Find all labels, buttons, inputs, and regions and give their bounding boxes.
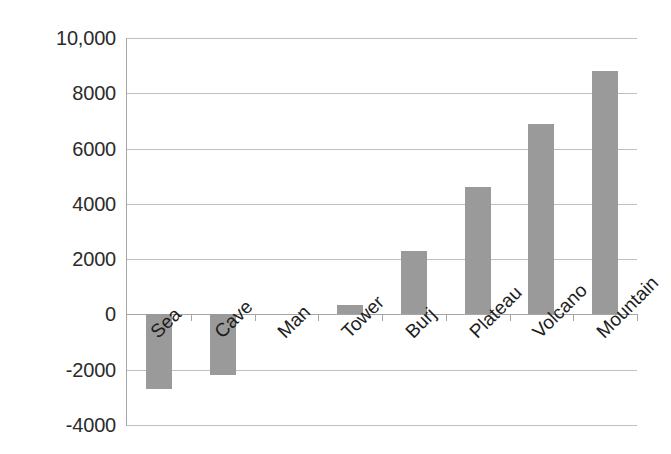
x-tick-2 [318, 314, 319, 321]
gridline-6000 [127, 149, 637, 150]
gridline-8000 [127, 93, 637, 94]
bar-plateau[interactable] [465, 187, 491, 314]
x-tick-1 [255, 314, 256, 321]
y-tick-label--2000: -2000 [5, 360, 116, 380]
gridline-4000 [127, 204, 637, 205]
x-tick-7 [637, 314, 638, 321]
y-tick-label-10000: 10,000 [5, 28, 116, 48]
y-tick-label-0: 0 [5, 304, 116, 324]
y-tick-label-2000: 2000 [5, 249, 116, 269]
gridline--4000 [127, 425, 637, 426]
x-tick-5 [510, 314, 511, 321]
bar-volcano[interactable] [528, 124, 554, 315]
y-tick-label-4000: 4000 [5, 194, 116, 214]
y-tick-label-6000: 6000 [5, 139, 116, 159]
bar-chart: 10,00080006000400020000-2000-4000 SeaCav… [0, 0, 671, 454]
plot-area [127, 38, 637, 425]
y-tick-label-8000: 8000 [5, 83, 116, 103]
gridline--2000 [127, 370, 637, 371]
x-tick-3 [382, 314, 383, 321]
bar-mountain[interactable] [592, 71, 618, 314]
x-tick-4 [446, 314, 447, 321]
x-tick-6 [573, 314, 574, 321]
x-tick-0 [191, 314, 192, 321]
y-tick-label--4000: -4000 [5, 415, 116, 435]
gridline-10000 [127, 38, 637, 39]
gridline-2000 [127, 259, 637, 260]
